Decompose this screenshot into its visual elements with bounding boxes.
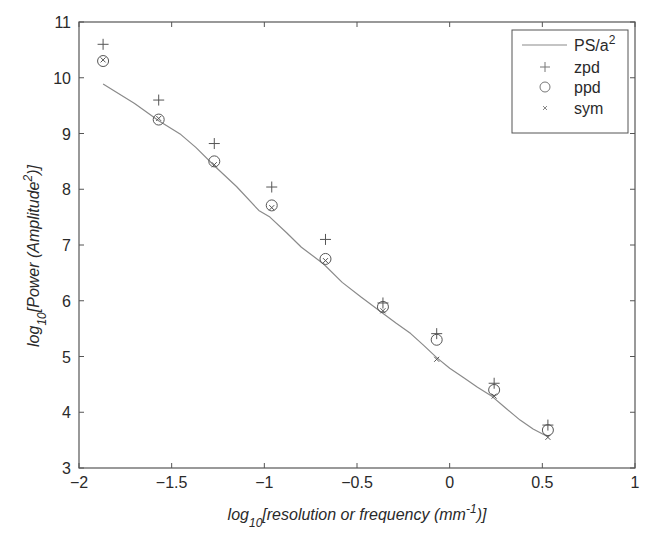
x-tick-label: 0 — [445, 474, 454, 491]
y-tick-label: 3 — [62, 460, 71, 477]
x-tick-label: −1 — [255, 474, 273, 491]
x-axis-label: log10[resolution or frequency (mm-1)] — [228, 502, 487, 530]
y-tick-label: 10 — [53, 70, 71, 87]
legend: PS/a2 zpd ppd sym — [512, 30, 628, 133]
y-tick-label: 9 — [62, 126, 71, 143]
y-tick-label: 6 — [62, 293, 71, 310]
x-tick-label: 0.5 — [531, 474, 553, 491]
power-spectrum-chart: −2−1.5−1−0.500.51 34567891011 log10[reso… — [0, 0, 653, 534]
y-tick-label: 7 — [62, 237, 71, 254]
legend-label-zpd: zpd — [574, 59, 600, 76]
legend-label-sym: sym — [574, 100, 603, 117]
x-tick-label: 1 — [631, 474, 640, 491]
legend-label-ppd: ppd — [574, 79, 601, 96]
x-tick-label: −0.5 — [341, 474, 373, 491]
y-tick-label: 5 — [62, 349, 71, 366]
y-tick-label: 4 — [62, 404, 71, 421]
y-tick-label: 11 — [54, 14, 71, 31]
y-axis-label: log10[Power (Amplitude2)] — [21, 165, 49, 347]
x-tick-label: −2 — [70, 474, 88, 491]
y-tick-label: 8 — [62, 181, 71, 198]
x-tick-label: −1.5 — [156, 474, 188, 491]
